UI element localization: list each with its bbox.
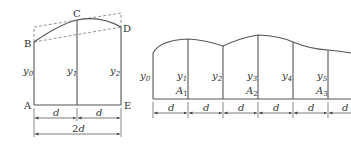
label-y2: y2 [109, 65, 121, 78]
label-y3: y3 [246, 70, 258, 83]
dim-label-d: d [308, 102, 314, 113]
dim-label-d2: d [96, 107, 102, 118]
area-label-a3: A3 [315, 85, 328, 98]
label-y2: y2 [211, 70, 223, 83]
dim-label-d: d [273, 102, 279, 113]
dim-label-d: d [342, 102, 348, 113]
point-label-a: A [23, 100, 32, 111]
label-y1: y1 [66, 65, 77, 78]
point-label-c: C [73, 8, 81, 19]
area-label-a2: A2 [245, 85, 258, 98]
point-label-e: E [124, 100, 131, 111]
diagram-canvas: B C D A E y0 y1 y2 d d 2d y0 y1 y2 y3 y4 [0, 0, 351, 148]
dim-label-d: d [203, 102, 209, 113]
label-y5: y5 [316, 70, 328, 83]
label-y0: y0 [139, 70, 151, 83]
curve-profile [153, 35, 351, 53]
label-y4: y4 [281, 70, 292, 83]
dim-label-2d: 2d [72, 123, 85, 134]
label-y1: y1 [176, 70, 187, 83]
dim-label-d: d [168, 102, 174, 113]
point-label-d: D [123, 23, 131, 34]
point-label-b: B [24, 38, 31, 49]
left-figure: B C D A E y0 y1 y2 d d 2d [22, 8, 131, 137]
label-y0: y0 [22, 65, 34, 78]
right-figure: y0 y1 y2 y3 y4 y5 A1 A2 A3 d d d d d [139, 35, 351, 118]
dim-label-d: d [238, 102, 244, 113]
dim-label-d1: d [53, 107, 59, 118]
area-label-a1: A1 [175, 85, 188, 98]
